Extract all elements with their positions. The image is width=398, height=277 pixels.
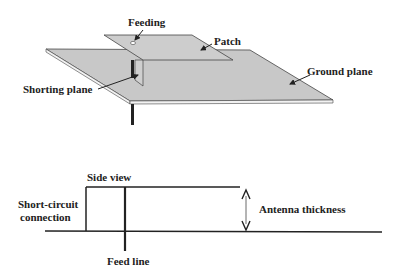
shorting-plane-label: Shorting plane [23, 83, 92, 95]
feed-pin-lower [131, 104, 134, 125]
feeding-label: Feeding [128, 16, 165, 28]
side-view [45, 187, 382, 251]
ground-plane-label: Ground plane [307, 65, 373, 77]
feed-pin-upper [131, 60, 134, 78]
feeding-point [131, 41, 136, 44]
feed-line-label: Feed line [107, 255, 149, 267]
patch-label: Patch [214, 35, 241, 47]
antenna-thickness-label: Antenna thickness [259, 203, 346, 215]
antenna-diagram [0, 0, 398, 277]
side-view-title: Side view [87, 171, 131, 183]
short-circuit-label-line2: connection [20, 211, 71, 223]
short-circuit-label-line1: Short-circuit [18, 198, 78, 210]
